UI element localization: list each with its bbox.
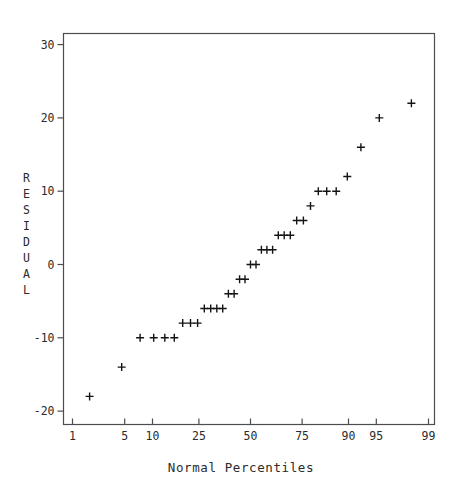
x-tick-label: 5 (121, 429, 128, 443)
y-axis-label-letter: I (23, 219, 30, 233)
y-tick-label: 0 (48, 258, 55, 272)
y-axis-label-letter: A (23, 267, 30, 281)
data-point-marker (150, 334, 158, 342)
data-point-marker (86, 392, 94, 400)
x-tick-label: 1 (69, 429, 76, 443)
x-tick-label: 75 (295, 429, 309, 443)
y-tick-label: 10 (41, 184, 55, 198)
data-point-marker (194, 319, 202, 327)
y-axis-label-letter: E (23, 187, 30, 201)
y-tick-label: 20 (41, 111, 55, 125)
y-axis-label-letter: L (23, 283, 30, 297)
data-point-marker (407, 99, 415, 107)
x-tick-label: 90 (342, 429, 356, 443)
data-point-marker (219, 305, 227, 313)
x-axis: 1510255075909599 (69, 419, 435, 443)
data-point-marker (136, 334, 144, 342)
data-point-marker (332, 187, 340, 195)
x-tick-label: 50 (244, 429, 258, 443)
residual-qq-plot: Normal Percentiles 3020100-10-2015102550… (0, 0, 457, 494)
plot-frame (64, 34, 435, 425)
data-point-marker (269, 246, 277, 254)
y-axis-label-letter: U (23, 251, 30, 265)
data-point-marker (307, 202, 315, 210)
data-point-marker (241, 275, 249, 283)
data-point-marker (252, 261, 260, 269)
x-axis-label: Normal Percentiles (168, 460, 314, 475)
y-axis-label-letter: R (23, 171, 30, 185)
data-point-marker (357, 143, 365, 151)
data-point-marker (314, 187, 322, 195)
data-point-marker (323, 187, 331, 195)
y-tick-label: 30 (41, 38, 55, 52)
data-point-marker (286, 231, 294, 239)
data-point-marker (343, 173, 351, 181)
x-tick-label: 95 (369, 429, 383, 443)
x-tick-label: 25 (192, 429, 206, 443)
y-axis-label-letter: D (23, 235, 30, 249)
data-point-marker (299, 217, 307, 225)
data-point-marker (161, 334, 169, 342)
normal-probability-plot-page: Normal Percentiles 3020100-10-2015102550… (0, 0, 457, 494)
y-tick-label: -20 (34, 404, 55, 418)
data-point-marker (187, 319, 195, 327)
y-tick-label: -10 (34, 331, 55, 345)
x-tick-label: 10 (146, 429, 160, 443)
y-axis-label-letter: S (23, 203, 30, 217)
data-points (86, 99, 416, 400)
data-point-marker (230, 290, 238, 298)
data-point-marker (179, 319, 187, 327)
x-tick-label: 99 (422, 429, 436, 443)
data-point-marker (375, 114, 383, 122)
y-axis: 3020100-10-20 (34, 38, 64, 419)
data-point-marker (170, 334, 178, 342)
data-point-marker (118, 363, 126, 371)
y-axis-label: RESIDUAL (23, 171, 30, 297)
